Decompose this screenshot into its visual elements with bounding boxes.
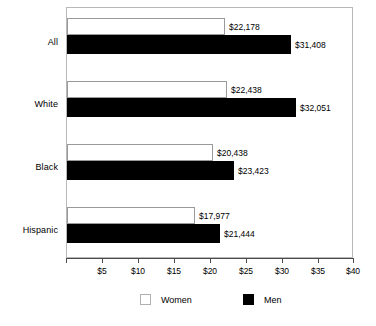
x-axis-tick-20 <box>210 258 211 263</box>
bar-women-white[interactable] <box>67 81 227 98</box>
legend-label-men: Men <box>264 295 282 305</box>
x-axis-tick-25 <box>246 258 247 263</box>
value-label-men-black: $23,423 <box>238 166 269 176</box>
value-label-women-all: $22,178 <box>229 22 260 32</box>
value-label-men-hispanic: $21,444 <box>224 229 255 239</box>
x-axis-tick-15 <box>174 258 175 263</box>
x-axis-tick-label-20: $20 <box>203 266 217 276</box>
bar-women-all[interactable] <box>67 18 225 35</box>
chart-legend: Women Men <box>0 294 376 314</box>
x-axis-tick-35 <box>318 258 319 263</box>
bar-men-hispanic[interactable] <box>67 224 220 243</box>
legend-label-women: Women <box>161 295 192 305</box>
bar-women-black[interactable] <box>67 144 213 161</box>
bar-men-black[interactable] <box>67 161 234 180</box>
value-label-women-black: $20,438 <box>217 148 248 158</box>
legend-item-men[interactable]: Men <box>243 294 282 305</box>
x-axis-tick-label-10: $10 <box>131 266 145 276</box>
x-axis-tick-label-30: $30 <box>275 266 289 276</box>
value-label-women-hispanic: $17,977 <box>199 211 230 221</box>
value-label-men-all: $31,408 <box>295 40 326 50</box>
x-axis-tick-10 <box>138 258 139 263</box>
bar-women-hispanic[interactable] <box>67 207 195 224</box>
women-swatch-icon <box>140 294 151 305</box>
x-axis-tick-40 <box>353 258 354 263</box>
bar-men-all[interactable] <box>67 35 291 54</box>
y-axis-label-all: All <box>48 37 58 47</box>
legend-item-women[interactable]: Women <box>140 294 192 305</box>
y-axis-category-labels: All White Black Hispanic <box>0 0 62 326</box>
y-axis-label-hispanic: Hispanic <box>23 225 58 235</box>
x-axis-tick-5 <box>102 258 103 263</box>
men-swatch-icon <box>243 294 254 305</box>
value-label-women-white: $22,438 <box>231 85 262 95</box>
bars-layer: $22,178 $31,408 $22,438 $32,051 $20,438 … <box>67 8 352 257</box>
x-axis-tick-label-15: $15 <box>167 266 181 276</box>
y-axis-label-black: Black <box>35 162 58 172</box>
x-axis-tick-0 <box>66 258 67 263</box>
value-label-men-white: $32,051 <box>300 103 331 113</box>
bar-men-white[interactable] <box>67 98 296 117</box>
y-axis-label-white: White <box>34 99 58 109</box>
x-axis-tick-label-5: $5 <box>97 266 106 276</box>
bar-chart: All White Black Hispanic $22,178 $31,408… <box>0 0 376 326</box>
x-axis-tick-label-25: $25 <box>239 266 253 276</box>
x-axis-tick-30 <box>282 258 283 263</box>
x-axis-tick-label-40: $40 <box>346 266 360 276</box>
x-axis-tick-label-35: $35 <box>311 266 325 276</box>
